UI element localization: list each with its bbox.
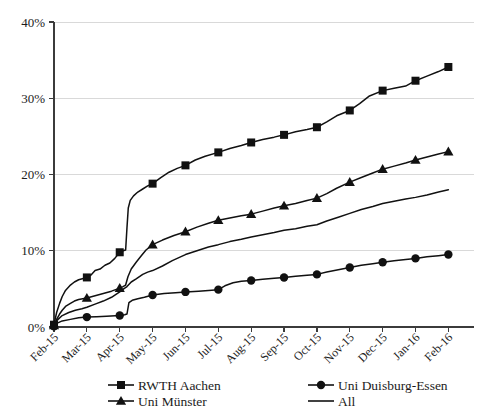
data-point-marker [83, 273, 91, 281]
data-point-marker [181, 288, 189, 296]
data-point-marker [116, 248, 124, 256]
data-point-marker [412, 77, 420, 85]
data-point-marker [379, 87, 387, 95]
data-point-marker [50, 322, 58, 330]
data-point-marker [247, 276, 255, 284]
data-point-marker [444, 250, 452, 258]
data-point-marker [214, 148, 222, 156]
data-point-marker [149, 180, 157, 188]
data-point-marker [280, 273, 288, 281]
data-point-marker [247, 138, 255, 146]
y-tick-label: 20% [21, 167, 45, 182]
data-point-marker [346, 106, 354, 114]
legend-label: RWTH Aachen [138, 378, 221, 393]
y-tick-label: 30% [21, 91, 45, 106]
data-point-marker [214, 285, 222, 293]
legend-marker-square [117, 381, 125, 389]
data-point-marker [313, 270, 321, 278]
legend-label: Uni Münster [138, 394, 207, 409]
y-tick-label: 0% [28, 320, 46, 335]
legend-label: All [338, 394, 356, 409]
data-point-marker [83, 313, 91, 321]
chart-container: 0%10%20%30%40% Feb-15Mar-15Apr-15May-15J… [0, 0, 484, 418]
data-point-marker [280, 131, 288, 139]
data-point-marker [378, 258, 386, 266]
data-point-marker [148, 291, 156, 299]
data-point-marker [444, 63, 452, 71]
y-tick-label: 40% [21, 15, 45, 30]
data-point-marker [346, 263, 354, 271]
legend-label: Uni Duisburg-Essen [338, 378, 448, 393]
y-tick-label: 10% [21, 243, 45, 258]
legend-marker-circle [317, 381, 325, 389]
data-point-marker [181, 161, 189, 169]
data-point-marker [116, 311, 124, 319]
data-point-marker [411, 254, 419, 262]
line-chart: 0%10%20%30%40% Feb-15Mar-15Apr-15May-15J… [0, 0, 484, 418]
data-point-marker [313, 123, 321, 131]
